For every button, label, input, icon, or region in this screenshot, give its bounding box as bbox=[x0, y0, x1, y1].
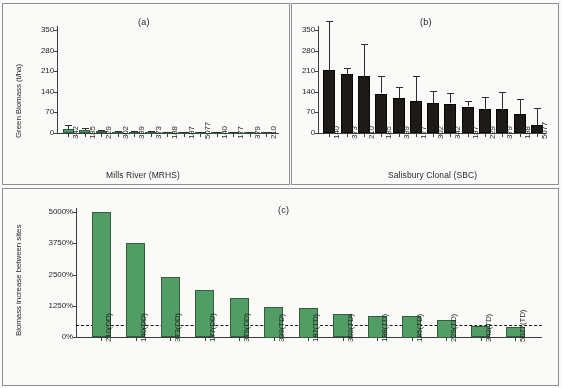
x-tick-mark bbox=[481, 338, 482, 341]
panel-c bbox=[2, 188, 559, 386]
y-axis-line bbox=[318, 26, 319, 133]
y-tick-label: 350 bbox=[255, 25, 315, 34]
x-tick-mark bbox=[381, 134, 382, 137]
x-tick-mark bbox=[184, 134, 185, 137]
y-tick-label: 1250% bbox=[13, 301, 73, 310]
x-tick-label: 5077(TD) bbox=[518, 310, 527, 342]
y-tick-mark bbox=[54, 30, 57, 31]
x-tick-mark bbox=[364, 134, 365, 137]
x-tick-mark bbox=[308, 338, 309, 341]
y-tick-label: 5000% bbox=[13, 207, 73, 216]
y-tick-mark bbox=[315, 71, 318, 72]
error-bar-stem bbox=[399, 87, 400, 98]
y-tick-label: 70 bbox=[0, 107, 54, 116]
y-tick-label: 0 bbox=[0, 128, 54, 137]
panel-c-title: (c) bbox=[278, 205, 289, 215]
x-tick-label: 379 bbox=[505, 126, 514, 139]
x-tick-mark bbox=[101, 134, 102, 137]
x-tick-label: 339(TD) bbox=[277, 314, 286, 342]
x-tick-label: 177(DD) bbox=[208, 313, 217, 342]
x-tick-mark bbox=[502, 134, 503, 137]
y-tick-mark bbox=[73, 212, 76, 213]
y-tick-mark bbox=[315, 112, 318, 113]
error-bar-stem bbox=[329, 21, 330, 70]
error-bar-cap bbox=[482, 97, 489, 98]
error-bar-stem bbox=[485, 97, 486, 109]
y-tick-mark bbox=[315, 51, 318, 52]
panel-b-title: (b) bbox=[420, 17, 432, 27]
x-tick-label: 302(TD) bbox=[346, 314, 355, 342]
x-tick-mark bbox=[233, 134, 234, 137]
y-tick-mark bbox=[73, 243, 76, 244]
error-bar-stem bbox=[450, 93, 451, 103]
x-tick-mark bbox=[101, 338, 102, 341]
x-tick-mark bbox=[485, 134, 486, 137]
error-bar-stem bbox=[520, 99, 521, 114]
y-tick-label: 0 bbox=[255, 128, 315, 137]
x-tick-label: 5077 bbox=[540, 122, 549, 139]
x-tick-label: 140(DD) bbox=[139, 313, 148, 342]
y-tick-mark bbox=[315, 92, 318, 93]
x-tick-label: 342(TD) bbox=[484, 314, 493, 342]
y-tick-mark bbox=[54, 112, 57, 113]
y-tick-mark bbox=[54, 71, 57, 72]
x-tick-mark bbox=[412, 338, 413, 341]
x-tick-mark bbox=[85, 134, 86, 137]
error-bar-stem bbox=[433, 91, 434, 103]
x-tick-mark bbox=[118, 134, 119, 137]
panel-b-x-axis-label: Salisbury Clonal (SBC) bbox=[388, 170, 477, 180]
x-tick-mark bbox=[520, 134, 521, 137]
error-bar-cap bbox=[430, 91, 437, 92]
x-tick-mark bbox=[68, 134, 69, 137]
x-tick-mark bbox=[134, 134, 135, 137]
error-bar-cap bbox=[361, 44, 368, 45]
error-bar-stem bbox=[502, 92, 503, 110]
x-tick-mark bbox=[343, 338, 344, 341]
x-tick-label: 187(TD) bbox=[311, 314, 320, 342]
error-bar-cap bbox=[326, 21, 333, 22]
y-tick-label: 0% bbox=[13, 332, 73, 341]
y-tick-label: 140 bbox=[255, 87, 315, 96]
y-tick-label: 2500% bbox=[13, 270, 73, 279]
x-tick-mark bbox=[515, 338, 516, 341]
x-tick-label: 229(TD) bbox=[449, 314, 458, 342]
x-tick-label: 140 bbox=[332, 126, 341, 139]
y-tick-label: 210 bbox=[255, 66, 315, 75]
y-tick-label: 210 bbox=[0, 66, 54, 75]
bar bbox=[341, 74, 353, 133]
x-tick-label: 185(TD) bbox=[415, 314, 424, 342]
error-bar-cap bbox=[499, 92, 506, 93]
x-tick-mark bbox=[416, 134, 417, 137]
error-bar-cap bbox=[344, 68, 351, 69]
y-tick-label: 280 bbox=[255, 46, 315, 55]
y-tick-label: 3750% bbox=[13, 238, 73, 247]
y-tick-label: 280 bbox=[0, 46, 54, 55]
x-tick-mark bbox=[274, 338, 275, 341]
y-tick-mark bbox=[315, 30, 318, 31]
x-tick-label: 373(DD) bbox=[173, 313, 182, 342]
y-tick-mark bbox=[315, 133, 318, 134]
x-tick-mark bbox=[151, 134, 152, 137]
x-tick-label: 379(DD) bbox=[242, 313, 251, 342]
x-tick-mark bbox=[167, 134, 168, 137]
x-tick-mark bbox=[347, 134, 348, 137]
error-bar-cap bbox=[413, 76, 420, 77]
error-bar-stem bbox=[537, 108, 538, 125]
error-bar-stem bbox=[416, 76, 417, 101]
error-bar-cap bbox=[534, 108, 541, 109]
error-bar-cap bbox=[465, 101, 472, 102]
error-bar-stem bbox=[364, 44, 365, 76]
x-tick-mark bbox=[200, 134, 201, 137]
x-tick-label: 185 bbox=[384, 126, 393, 139]
x-tick-label: 188(TD) bbox=[380, 314, 389, 342]
x-tick-mark bbox=[136, 338, 137, 341]
error-bar-cap bbox=[378, 76, 385, 77]
y-axis-line bbox=[57, 26, 58, 133]
x-tick-mark bbox=[377, 338, 378, 341]
x-tick-mark bbox=[450, 134, 451, 137]
bar bbox=[358, 76, 370, 133]
figure-root: (a) Green Biomass (t/ha) Mills River (MR… bbox=[0, 0, 562, 388]
y-tick-label: 350 bbox=[0, 25, 54, 34]
y-tick-mark bbox=[54, 133, 57, 134]
y-tick-mark bbox=[73, 306, 76, 307]
